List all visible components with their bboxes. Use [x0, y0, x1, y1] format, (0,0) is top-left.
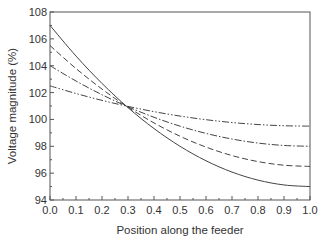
series-line-solid — [50, 25, 310, 186]
data-series — [50, 25, 310, 186]
series-line-dashed — [50, 46, 310, 167]
x-axis-label: Position along the feeder — [116, 224, 243, 236]
x-axis-ticks: 0.00.10.20.30.40.50.60.70.80.91.0 — [42, 196, 317, 216]
y-tick-label: 98 — [35, 140, 47, 152]
series-line-dash-dot — [50, 66, 310, 147]
y-tick-label: 102 — [29, 87, 47, 99]
x-tick-label: 0.2 — [94, 204, 109, 216]
x-tick-label: 0.4 — [146, 204, 161, 216]
x-tick-label: 0.9 — [276, 204, 291, 216]
y-tick-label: 96 — [35, 167, 47, 179]
x-tick-label: 0.3 — [120, 204, 135, 216]
voltage-profile-chart: 949698100102104106108 0.00.10.20.30.40.5… — [0, 0, 327, 242]
x-tick-label: 0.8 — [250, 204, 265, 216]
x-tick-label: 0.0 — [42, 204, 57, 216]
y-tick-label: 106 — [29, 33, 47, 45]
y-tick-label: 108 — [29, 6, 47, 18]
x-tick-label: 0.1 — [68, 204, 83, 216]
x-tick-label: 0.6 — [198, 204, 213, 216]
y-tick-label: 100 — [29, 113, 47, 125]
y-axis-label: Voltage magnitude (%) — [6, 48, 18, 165]
x-tick-label: 0.7 — [224, 204, 239, 216]
series-line-dash-dot-dot — [50, 86, 310, 126]
x-tick-label: 1.0 — [302, 204, 317, 216]
plot-frame — [50, 12, 310, 200]
y-tick-label: 104 — [29, 60, 47, 72]
x-tick-label: 0.5 — [172, 204, 187, 216]
